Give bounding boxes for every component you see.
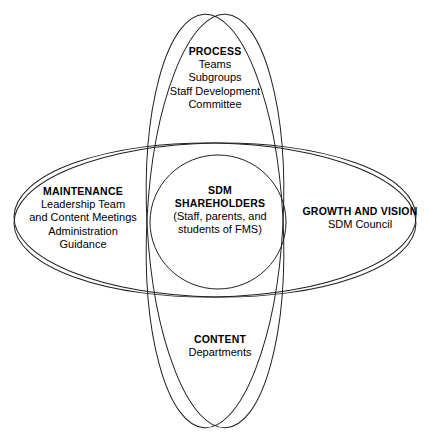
region-line-sdm-2: students of FMS) (150, 223, 290, 236)
region-label-sdm-shareholders: SDM SHAREHOLDERS (Staff, parents, and st… (150, 184, 290, 236)
region-line-sdm-1: (Staff, parents, and (150, 210, 290, 223)
region-line-maintenance-1: Leadership Team (6, 198, 160, 211)
region-label-content: CONTENT Departments (150, 333, 290, 359)
region-title-growth-and-vision: GROWTH AND VISION (290, 205, 430, 218)
region-title-sdm-line-2: SHAREHOLDERS (150, 197, 290, 210)
region-title-sdm-line-1: SDM (150, 184, 290, 197)
region-title-content: CONTENT (150, 333, 290, 346)
region-line-content-1: Departments (150, 346, 290, 359)
region-label-maintenance: MAINTENANCE Leadership Team and Content … (6, 185, 160, 251)
region-line-process-1: Teams (0, 58, 430, 71)
region-line-growth-1: SDM Council (290, 218, 430, 231)
region-line-maintenance-4: Guidance (6, 238, 160, 251)
region-line-process-2: Subgroups (0, 71, 430, 84)
region-title-maintenance: MAINTENANCE (6, 185, 160, 198)
region-label-process: PROCESS Teams Subgroups Staff Developmen… (0, 45, 430, 111)
region-line-process-4: Committee (0, 98, 430, 111)
venn-diagram-canvas: PROCESS Teams Subgroups Staff Developmen… (0, 0, 430, 441)
region-line-maintenance-2: and Content Meetings (6, 211, 160, 224)
region-label-growth-and-vision: GROWTH AND VISION SDM Council (290, 205, 430, 231)
region-line-process-3: Staff Development (0, 85, 430, 98)
region-title-process: PROCESS (0, 45, 430, 58)
region-line-maintenance-3: Administration (6, 225, 160, 238)
